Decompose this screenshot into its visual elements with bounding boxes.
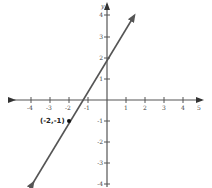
y-tick-label: -4 bbox=[97, 180, 103, 187]
x-tick-label: 3 bbox=[162, 104, 166, 111]
x-tick-label: -1 bbox=[84, 104, 90, 111]
point-marker bbox=[67, 119, 71, 123]
coordinate-plane: -4 -3 -2 -1 1 2 3 4 5 4 3 2 1 -1 -2 -3 -… bbox=[0, 0, 212, 188]
point-label: (-2,-1) bbox=[40, 117, 65, 125]
y-tick-label: 3 bbox=[99, 33, 103, 40]
y-tick-label: -2 bbox=[97, 138, 103, 145]
x-tick-label: -3 bbox=[46, 104, 52, 111]
y-tick-label: -1 bbox=[97, 117, 103, 124]
x-tick-label: 4 bbox=[181, 104, 185, 111]
y-tick-label: 1 bbox=[99, 75, 103, 82]
x-tick-label: -2 bbox=[65, 104, 71, 111]
y-tick-labels: 4 3 2 1 -1 -2 -3 -4 bbox=[97, 11, 103, 187]
x-tick-label: 2 bbox=[143, 104, 147, 111]
x-tick-label: 5 bbox=[197, 104, 201, 111]
y-tick-label: 2 bbox=[99, 54, 103, 61]
x-tick-label: 1 bbox=[124, 104, 128, 111]
y-axis-label: y bbox=[100, 2, 105, 10]
x-tick-labels: -4 -3 -2 -1 1 2 3 4 5 bbox=[27, 104, 201, 111]
y-tick-label: -3 bbox=[97, 159, 103, 166]
y-tick-label: 4 bbox=[99, 11, 103, 18]
x-tick-label: -4 bbox=[27, 104, 33, 111]
